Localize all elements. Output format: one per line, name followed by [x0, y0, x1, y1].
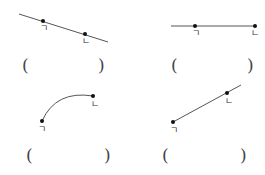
panel-2-label-nieun: ㄴ: [251, 29, 259, 38]
panel-4-label-nieun: ㄴ: [225, 97, 233, 106]
panel-4-point-giyeok: [171, 120, 175, 124]
panel-4-label-giyeok: ㄱ: [170, 126, 178, 135]
panel-2-label-giyeok: ㄱ: [192, 29, 200, 38]
panel-3-point-giyeok: [40, 119, 44, 123]
panel-4-point-nieun: [225, 91, 229, 95]
panel-1-answer-close: ): [98, 57, 105, 74]
panel-1-label-nieun: ㄴ: [82, 37, 90, 46]
panel-2-answer-close: ): [247, 57, 254, 74]
panel-1-label-giyeok: ㄱ: [40, 24, 48, 33]
panel-3-answer-close: ): [104, 147, 111, 164]
panel-3-answer-blank[interactable]: [34, 148, 102, 166]
panel-2-answer-open: (: [171, 57, 178, 74]
panel-4-answer-open: (: [162, 147, 169, 164]
panel-3-label-giyeok: ㄱ: [38, 125, 46, 134]
panel-3-point-nieun: [91, 94, 95, 98]
panel-1-answer-blank[interactable]: [30, 58, 96, 76]
panel-1-line: [19, 14, 108, 42]
panel-2-answer-blank[interactable]: [179, 58, 245, 76]
panel-3-label-nieun: ㄴ: [91, 100, 99, 109]
panel-3-answer-open: (: [26, 147, 33, 164]
panel-4-answer-close: ): [240, 147, 247, 164]
panel-4-answer-blank[interactable]: [170, 148, 238, 166]
panel-3-curve: [42, 95, 93, 121]
panel-1-answer-open: (: [22, 57, 29, 74]
